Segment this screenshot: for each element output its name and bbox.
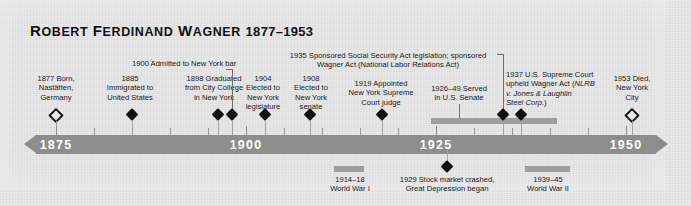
marker-1937 <box>517 110 526 119</box>
marker-1900 <box>228 110 237 119</box>
page-title: ROBERT FERDINAND WAGNER 1877–1953 <box>30 22 313 39</box>
event-label-1935: 1935 Sponsored Social Security Act legis… <box>268 51 508 70</box>
event-label-1939: 1939–45 World War II <box>513 175 583 194</box>
marker-1953 <box>627 110 638 121</box>
span-bar-1939-1945 <box>525 166 570 172</box>
axis-tick <box>588 128 589 135</box>
diamond-icon <box>515 108 528 121</box>
leader-line-1926 <box>459 104 460 118</box>
event-label-1919: 1919 Appointed New York Supreme Court ju… <box>333 79 429 107</box>
diamond-icon <box>259 108 272 121</box>
axis-tick <box>170 128 171 135</box>
diamond-icon <box>497 108 510 121</box>
axis-tick <box>398 128 399 135</box>
axis-year-1875: 1875 <box>40 138 73 152</box>
axis-tick <box>322 128 323 135</box>
leader-elbow-1900 <box>226 69 233 70</box>
marker-stem <box>382 121 383 135</box>
event-label-1926: 1926–49 Served in U.S. Senate <box>421 84 497 103</box>
axis-tick <box>626 126 627 135</box>
diamond-icon <box>226 108 239 121</box>
marker-1898 <box>214 110 223 119</box>
diamond-icon <box>212 108 225 121</box>
event-label-1904: 1904 Elected to New York legislature <box>237 74 289 112</box>
axis-tick <box>208 128 209 135</box>
span-bar-1914-1918 <box>334 166 364 172</box>
axis-tick <box>56 126 57 135</box>
marker-1885 <box>128 110 137 119</box>
marker-1877 <box>51 110 62 121</box>
marker-stem <box>503 121 504 135</box>
marker-stem <box>265 121 266 135</box>
diamond-icon <box>376 108 389 121</box>
axis-arrow-left <box>24 135 36 153</box>
axis-tick <box>284 128 285 135</box>
event-label-1908: 1908 Elected to New York senate <box>285 74 337 112</box>
event-label-1885: 1885 Immigrated to United States <box>94 74 166 102</box>
title-life-dates: 1877–1953 <box>246 24 314 39</box>
event-label-1929: 1929 Stock market crashed, Great Depress… <box>383 175 511 194</box>
event-label-1953: 1953 Died, New York City <box>602 74 662 102</box>
span-bar-1926-1949 <box>431 118 557 124</box>
axis-tick <box>512 128 513 135</box>
leader-elbow-1935 <box>497 54 504 55</box>
timeline-figure: ROBERT FERDINAND WAGNER 1877–1953 1877 B… <box>0 0 691 206</box>
axis-tick <box>436 126 437 135</box>
marker-1929 <box>443 162 452 171</box>
axis-year-1900: 1900 <box>230 138 263 152</box>
timeline-axis: 1875 1900 1925 1950 <box>24 135 668 154</box>
diamond-icon <box>126 108 139 121</box>
leader-line-1935 <box>503 54 504 110</box>
marker-stem <box>218 121 219 135</box>
marker-1904 <box>261 110 270 119</box>
axis-arrow-right <box>656 135 668 153</box>
marker-1919 <box>378 110 387 119</box>
event-1937-tail: ) <box>544 98 547 107</box>
axis-year-1950: 1950 <box>610 138 643 152</box>
axis-tick <box>360 128 361 135</box>
event-label-1914: 1914–18 World War I <box>315 175 385 194</box>
leader-line-1900 <box>232 69 233 110</box>
marker-stem <box>232 121 233 135</box>
axis-tick <box>246 126 247 135</box>
axis-tick <box>474 128 475 135</box>
event-label-1877: 1877 Born, Nastätten, Germany <box>25 74 87 102</box>
diamond-icon <box>304 108 317 121</box>
marker-stem <box>521 121 522 135</box>
diamond-icon <box>441 160 454 173</box>
title-name: ROBERT FERDINAND WAGNER <box>30 23 241 39</box>
axis-tick <box>94 128 95 135</box>
axis-bar <box>36 135 656 154</box>
marker-stem <box>632 121 633 135</box>
marker-1935 <box>499 110 508 119</box>
axis-tick <box>550 128 551 135</box>
marker-1908 <box>306 110 315 119</box>
marker-stem <box>310 121 311 135</box>
event-label-1937: 1937 U.S. Supreme Court upheld Wagner Ac… <box>506 70 610 108</box>
axis-tick <box>132 128 133 135</box>
